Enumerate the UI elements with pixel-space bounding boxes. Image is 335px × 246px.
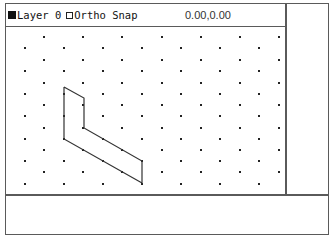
grid-dot <box>258 70 260 72</box>
grid-dot <box>180 47 182 49</box>
drawn-polyline[interactable] <box>64 87 142 183</box>
grid-dot <box>63 183 65 185</box>
grid-dot <box>141 115 143 117</box>
grid-dot <box>258 93 260 95</box>
grid-dot <box>258 47 260 49</box>
grid-dot <box>161 127 163 129</box>
grid-dot <box>180 160 182 162</box>
grid-dot <box>43 171 45 173</box>
grid-dot <box>239 171 241 173</box>
grid-dot <box>239 36 241 38</box>
grid-dot <box>24 160 26 162</box>
grid-dot <box>161 82 163 84</box>
grid-dot <box>219 70 221 72</box>
grid-dot <box>200 82 202 84</box>
grid-dot <box>63 70 65 72</box>
grid-dot <box>121 82 123 84</box>
grid-dot <box>102 47 104 49</box>
grid-dot <box>258 138 260 140</box>
grid-dot <box>24 47 26 49</box>
grid-dot <box>82 171 84 173</box>
grid-dot <box>278 59 280 61</box>
grid-dot <box>82 59 84 61</box>
grid-dot <box>278 149 280 151</box>
grid-dot <box>180 70 182 72</box>
grid-dot <box>43 149 45 151</box>
grid-dot <box>43 127 45 129</box>
grid-dot <box>180 93 182 95</box>
drawing-canvas[interactable] <box>0 0 335 246</box>
grid-dot <box>219 93 221 95</box>
grid-dot <box>278 82 280 84</box>
grid-dot <box>102 70 104 72</box>
grid-dot <box>43 36 45 38</box>
grid-dot <box>102 183 104 185</box>
grid-dot <box>239 82 241 84</box>
grid-dot <box>200 149 202 151</box>
grid-dot <box>43 82 45 84</box>
grid-dot <box>161 171 163 173</box>
grid-dot <box>24 115 26 117</box>
grid-dot <box>200 59 202 61</box>
grid-dot <box>278 36 280 38</box>
grid-dot <box>82 82 84 84</box>
grid-dot <box>24 138 26 140</box>
grid-dot <box>141 93 143 95</box>
grid-dot <box>121 127 123 129</box>
grid-dot <box>219 160 221 162</box>
grid-dot <box>180 183 182 185</box>
grid-dot <box>161 36 163 38</box>
grid-dot <box>141 138 143 140</box>
grid-dot <box>102 115 104 117</box>
grid-dot <box>258 183 260 185</box>
grid-dot <box>239 104 241 106</box>
grid-dot <box>239 127 241 129</box>
grid-dot <box>219 138 221 140</box>
grid-dot <box>24 70 26 72</box>
grid-dot <box>141 70 143 72</box>
grid-dot <box>219 183 221 185</box>
grid-dot <box>63 160 65 162</box>
grid-dot <box>161 149 163 151</box>
grid-dot <box>200 127 202 129</box>
grid-dot <box>239 59 241 61</box>
grid-dot <box>278 104 280 106</box>
grid-dot <box>200 171 202 173</box>
grid-dot <box>258 115 260 117</box>
grid-dot <box>200 36 202 38</box>
grid-dot <box>24 93 26 95</box>
grid-dot <box>82 36 84 38</box>
grid-dot <box>63 47 65 49</box>
grid-dot <box>200 104 202 106</box>
grid-dot <box>24 183 26 185</box>
grid-dot <box>180 115 182 117</box>
grid-dot <box>239 149 241 151</box>
grid-dot <box>43 104 45 106</box>
grid-dot <box>278 171 280 173</box>
grid-dot <box>258 160 260 162</box>
grid-dot <box>219 115 221 117</box>
grid-dot <box>102 93 104 95</box>
grid-dot <box>219 47 221 49</box>
grid-dot <box>121 59 123 61</box>
grid-dot <box>161 104 163 106</box>
grid-dot <box>141 47 143 49</box>
grid-dot <box>121 104 123 106</box>
isometric-snap-grid <box>24 36 280 185</box>
grid-dot <box>161 59 163 61</box>
grid-dot <box>278 127 280 129</box>
grid-dot <box>43 59 45 61</box>
grid-dot <box>121 36 123 38</box>
grid-dot <box>180 138 182 140</box>
